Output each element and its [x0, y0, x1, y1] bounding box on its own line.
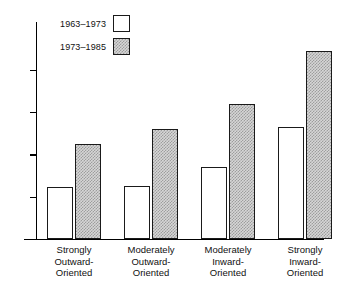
x-axis-label-line: Inward-: [268, 256, 342, 268]
x-axis-label-line: Strongly: [37, 244, 111, 256]
bar: [152, 129, 178, 239]
x-axis-label-line: Inward-: [191, 256, 265, 268]
x-axis-label-line: Moderately: [114, 244, 188, 256]
x-axis-label-line: Oriented: [268, 267, 342, 279]
x-axis-label-line: Moderately: [191, 244, 265, 256]
bar: [229, 104, 255, 239]
bar: [124, 186, 150, 239]
x-axis-label-line: Oriented: [191, 267, 265, 279]
x-axis-label: ModeratelyOutward-Oriented: [114, 244, 188, 279]
x-axis-label-line: Oriented: [37, 267, 111, 279]
bar: [75, 144, 101, 239]
y-tick-mark: [30, 154, 37, 155]
x-axis-label-line: Oriented: [114, 267, 188, 279]
bar: [278, 127, 304, 239]
bar: [201, 167, 227, 239]
y-tick-mark: [30, 70, 37, 71]
x-axis-label: StronglyInward-Oriented: [268, 244, 342, 279]
x-axis-label-line: Outward-: [114, 256, 188, 268]
x-axis-label: StronglyOutward-Oriented: [37, 244, 111, 279]
x-axis-label: ModeratelyInward-Oriented: [191, 244, 265, 279]
y-tick-mark: [30, 112, 37, 113]
x-axis-label-line: Outward-: [37, 256, 111, 268]
x-axis-label-line: Strongly: [268, 244, 342, 256]
y-tick-mark: [30, 239, 37, 240]
bar-chart: 1963–1973 1973–1985 02468 StronglyOutwar…: [0, 0, 349, 290]
bar: [47, 187, 73, 239]
bar: [306, 51, 332, 239]
y-tick-mark: [30, 197, 37, 198]
